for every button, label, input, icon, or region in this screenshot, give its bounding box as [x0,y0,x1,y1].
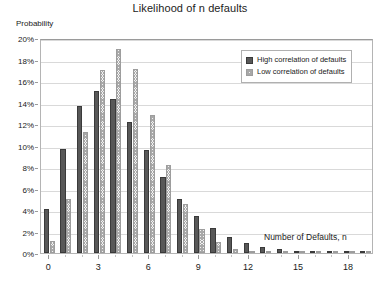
bar-high-correlation [327,251,332,253]
x-tick-label: 6 [146,262,151,272]
x-minor-tick-mark [265,255,266,257]
bar-high-correlation [227,237,232,253]
y-axis-title: Probability [16,19,53,28]
bar-low-correlation [249,251,254,253]
bar-high-correlation [260,247,265,253]
y-tick-label: 12% [18,121,34,130]
bar-low-correlation [150,115,155,253]
x-minor-tick-mark [315,255,316,257]
x-tick-mark [298,255,299,259]
y-tick-label: 10% [18,142,34,151]
y-tick-mark [35,147,38,148]
bar-low-correlation [216,242,221,253]
x-tick-mark [48,255,49,259]
y-tick-label: 8% [22,164,34,173]
bar-low-correlation [199,229,204,253]
x-tick-mark [348,255,349,259]
bar-low-correlation [66,199,71,253]
legend-swatch-icon-high [246,57,253,64]
legend-swatch-icon-low [246,69,253,76]
y-tick-mark [35,82,38,83]
x-tick-mark [148,255,149,259]
bar-high-correlation [77,106,82,253]
bar-low-correlation [316,251,321,253]
y-tick-label: 20% [18,35,34,44]
bar-high-correlation [160,177,165,253]
y-tick-label: 4% [22,207,34,216]
chart-container: Likelihood of n defaults Probability 0%2… [0,0,383,300]
bar-high-correlation [294,251,299,253]
bar-high-correlation [44,209,49,253]
x-minor-tick-mark [82,255,83,257]
x-minor-tick-mark [215,255,216,257]
x-tick-label: 15 [293,262,303,272]
bar-high-correlation [344,251,349,253]
bar-low-correlation [366,251,371,253]
bar-high-correlation [360,251,365,253]
bar-high-correlation [210,228,215,253]
x-tick-mark [198,255,199,259]
x-tick-label: 9 [196,262,201,272]
bar-high-correlation [144,150,149,253]
bar-high-correlation [277,249,282,253]
y-tick-mark [35,39,38,40]
x-minor-tick-mark [182,255,183,257]
legend-item-low: Low correlation of defaults [246,66,346,78]
x-minor-tick-mark [331,255,332,257]
bar-high-correlation [127,122,132,253]
bar-low-correlation [349,251,354,253]
bar-high-correlation [60,149,65,253]
chart-legend: High correlation of defaults Low correla… [241,50,352,83]
y-tick-label: 14% [18,99,34,108]
x-minor-tick-mark [165,255,166,257]
bar-high-correlation [94,91,99,253]
x-minor-tick-mark [231,255,232,257]
legend-label-low: Low correlation of defaults [257,68,345,76]
bar-high-correlation [310,251,315,253]
legend-label-high: High correlation of defaults [257,56,346,64]
bar-low-correlation [183,204,188,253]
bar-low-correlation [283,251,288,253]
x-tick-label: 0 [46,262,51,272]
x-minor-tick-mark [65,255,66,257]
bar-low-correlation [266,251,271,253]
y-tick-label: 2% [22,228,34,237]
y-tick-label: 6% [22,185,34,194]
bar-high-correlation [194,216,199,253]
legend-item-high: High correlation of defaults [246,54,346,66]
y-tick-mark [35,104,38,105]
x-minor-tick-mark [365,255,366,257]
x-minor-tick-mark [281,255,282,257]
x-tick-mark [248,255,249,259]
bar-high-correlation [244,243,249,253]
x-minor-tick-mark [115,255,116,257]
bar-low-correlation [100,70,105,253]
x-minor-tick-mark [132,255,133,257]
y-tick-mark [35,233,38,234]
y-tick-mark [35,254,38,255]
y-tick-mark [35,168,38,169]
y-tick-mark [35,125,38,126]
x-tick-label: 18 [343,262,353,272]
bar-low-correlation [333,251,338,253]
bar-low-correlation [133,69,138,253]
x-tick-label: 3 [96,262,101,272]
bar-low-correlation [166,165,171,253]
bar-high-correlation [177,199,182,253]
y-tick-label: 16% [18,78,34,87]
y-tick-label: 18% [18,56,34,65]
bar-low-correlation [83,132,88,253]
chart-title: Likelihood of n defaults [40,2,340,14]
bar-low-correlation [233,249,238,254]
x-tick-mark [98,255,99,259]
x-axis-title: Number of Defaults, n [264,232,347,242]
x-axis-ticks: 0369121518 [40,255,373,279]
y-tick-mark [35,190,38,191]
y-axis-ticks: 0%2%4%6%8%10%12%14%16%18%20% [0,39,38,254]
bar-low-correlation [299,251,304,253]
y-tick-mark [35,211,38,212]
bar-low-correlation [50,241,55,253]
x-tick-label: 12 [243,262,253,272]
y-tick-label: 0% [22,250,34,259]
bar-high-correlation [110,99,115,253]
